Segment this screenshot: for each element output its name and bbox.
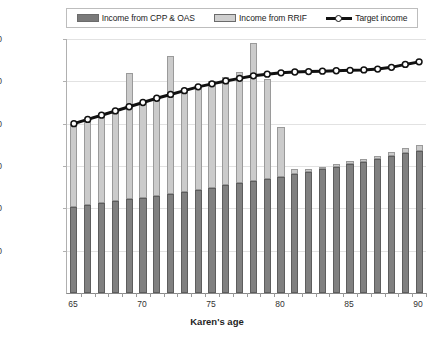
x-tick (343, 293, 344, 297)
x-axis-title: Karen's age (0, 316, 434, 327)
target-line-swatch-icon (326, 14, 352, 22)
y-tick (63, 124, 67, 125)
legend-label-target-income: Target income (355, 13, 407, 23)
y-axis-label: $40,000 (0, 119, 2, 129)
x-tick (219, 293, 220, 297)
y-axis-label: $50,000 (0, 76, 2, 86)
legend-item-target-income: Target income (326, 13, 407, 23)
x-tick (371, 293, 372, 297)
y-tick (63, 208, 67, 209)
x-tick (260, 293, 261, 297)
x-axis-label: 90 (405, 299, 431, 309)
cpp-oas-swatch-icon (77, 14, 99, 22)
legend-item-rrif: Income from RRIF (214, 13, 307, 23)
x-tick (357, 293, 358, 297)
x-tick (274, 293, 275, 297)
x-tick (316, 293, 317, 297)
x-tick (95, 293, 96, 297)
y-axis-label: $60,000 (0, 34, 2, 44)
y-tick (63, 251, 67, 252)
x-tick (81, 293, 82, 297)
x-tick (247, 293, 248, 297)
target-income-line (67, 39, 426, 293)
x-tick (150, 293, 151, 297)
x-axis-label: 75 (198, 299, 224, 309)
x-tick (177, 293, 178, 297)
x-axis-label: 70 (129, 299, 155, 309)
y-axis-label: $10,000 (0, 246, 2, 256)
x-tick (164, 293, 165, 297)
legend-item-cpp-oas: Income from CPP & OAS (77, 13, 195, 23)
y-tick (63, 81, 67, 82)
x-tick (385, 293, 386, 297)
x-tick (302, 293, 303, 297)
x-tick (122, 293, 123, 297)
x-tick (426, 293, 427, 297)
y-tick (63, 39, 67, 40)
chart-legend: Income from CPP & OAS Income from RRIF T… (66, 8, 418, 28)
x-tick (329, 293, 330, 297)
chart-container: Income from CPP & OAS Income from RRIF T… (0, 0, 434, 340)
rrif-swatch-icon (214, 14, 236, 22)
x-axis-label: 85 (336, 299, 362, 309)
x-tick (288, 293, 289, 297)
x-axis-label: 80 (267, 299, 293, 309)
x-tick (233, 293, 234, 297)
x-tick (398, 293, 399, 297)
legend-label-cpp-oas: Income from CPP & OAS (102, 13, 195, 23)
x-axis-label: 65 (60, 299, 86, 309)
x-tick (191, 293, 192, 297)
legend-label-rrif: Income from RRIF (239, 13, 307, 23)
y-tick (63, 166, 67, 167)
x-tick (108, 293, 109, 297)
x-tick (205, 293, 206, 297)
plot-area (66, 39, 426, 294)
y-axis-label: $20,000 (0, 203, 2, 213)
y-axis-label: $30,000 (0, 161, 2, 171)
x-tick (136, 293, 137, 297)
x-tick (412, 293, 413, 297)
